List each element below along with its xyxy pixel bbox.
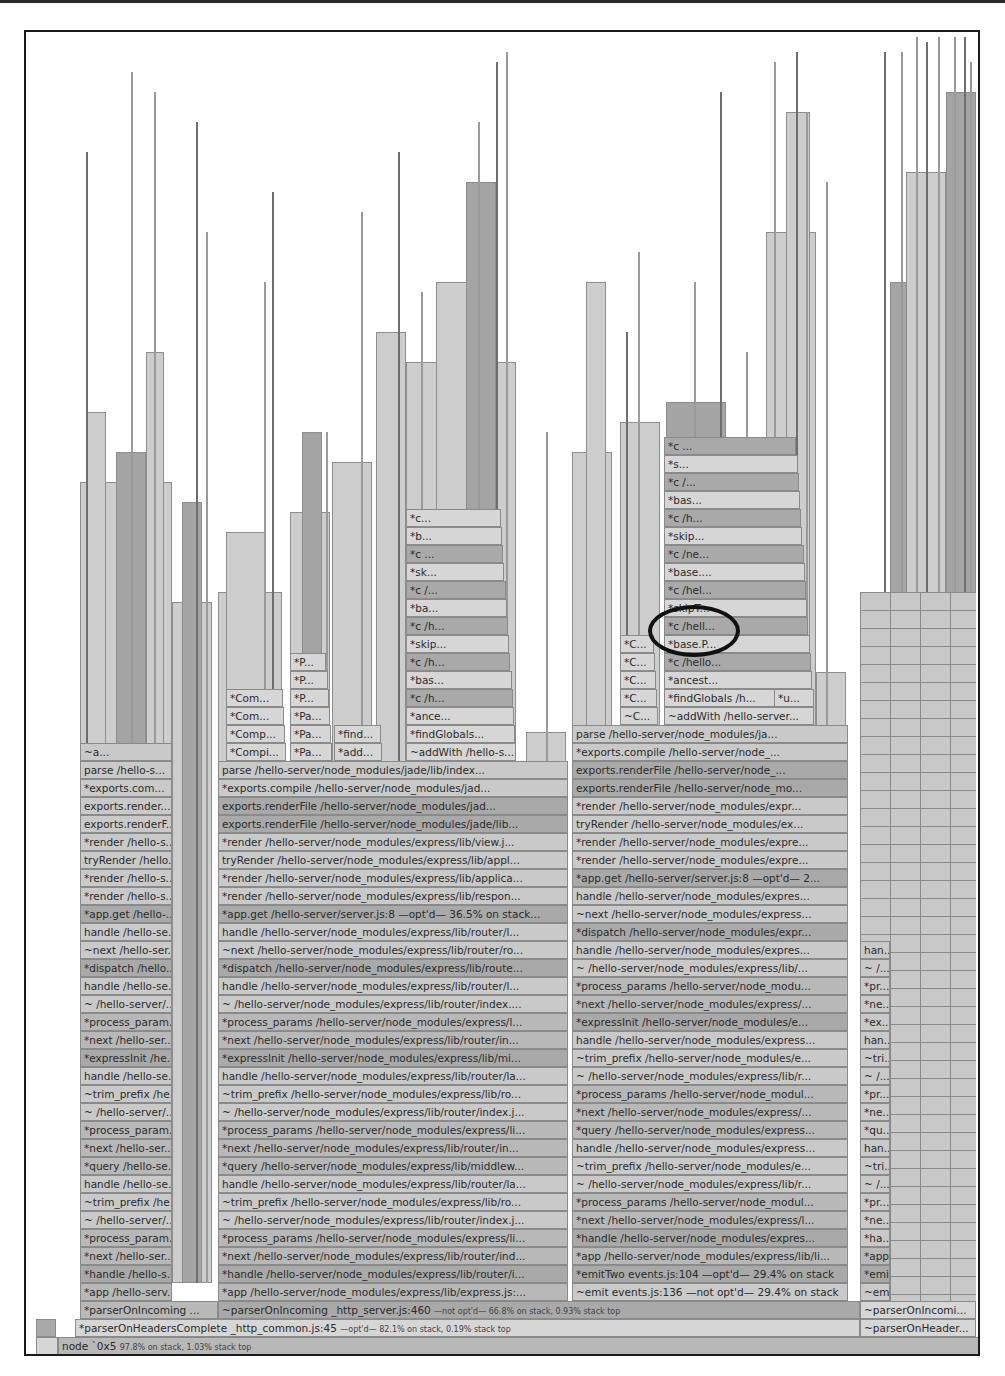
stack-frame[interactable]: ~ /... xyxy=(860,1067,890,1085)
stack-frame[interactable]: han... xyxy=(860,1139,890,1157)
stack-frame[interactable]: *bas... xyxy=(406,671,512,689)
stack-frame[interactable]: *render /hello-s... xyxy=(80,833,172,851)
stack-frame[interactable]: exports.renderFile /hello-server/node_mo… xyxy=(218,797,568,815)
stack-frame[interactable]: *expressInit /he... xyxy=(80,1049,172,1067)
frame-parser-on-header-right[interactable]: ~parserOnHeader... xyxy=(860,1319,976,1337)
stack-frame[interactable]: *handle /hello-server/node_modules/expre… xyxy=(572,1229,848,1247)
stack-frame[interactable]: *app /h... xyxy=(860,1247,890,1265)
stack-frame[interactable]: *process_params /hello-server/node_modul… xyxy=(218,1121,568,1139)
stack-frame[interactable]: *process_params /hello-server/node_modul… xyxy=(218,1013,568,1031)
stack-frame[interactable]: *Pa... xyxy=(290,743,332,761)
stack-frame[interactable]: ~addWith /hello-server... xyxy=(664,707,814,725)
stack-frame[interactable]: exports.renderF... xyxy=(80,815,172,833)
stack-frame[interactable]: *ne... xyxy=(860,995,890,1013)
stack-frame[interactable]: *next /hello-server/node_modules/express… xyxy=(572,995,848,1013)
stack-frame[interactable]: *base.P... xyxy=(664,635,810,653)
stack-frame[interactable]: parse /hello-server/node_modules/ja... xyxy=(572,725,848,743)
stack-frame[interactable]: *ba... xyxy=(406,599,507,617)
stack-frame[interactable]: handle /hello-server/node_modules/expres… xyxy=(218,1175,568,1193)
stack-frame[interactable]: *ne... xyxy=(860,1211,890,1229)
stack-frame[interactable]: *C... xyxy=(620,671,656,689)
stack-frame[interactable]: *next /hello-ser... xyxy=(80,1031,172,1049)
stack-frame[interactable]: *process_params /hello-server/node_modu.… xyxy=(572,977,848,995)
stack-frame[interactable]: ~trim_prefix /hello-server/node_modules/… xyxy=(218,1193,568,1211)
stack-frame[interactable]: *expressInit /hello-server/node_modules/… xyxy=(218,1049,568,1067)
stack-frame[interactable]: *next /hello-server/node_modules/express… xyxy=(572,1211,848,1229)
stack-frame[interactable]: ~ /hello-server/... xyxy=(80,1103,172,1121)
stack-frame[interactable]: *handle /hello-server/node_modules/expre… xyxy=(218,1265,568,1283)
stack-frame[interactable]: *process_param... xyxy=(80,1229,172,1247)
stack-frame[interactable]: *skip... xyxy=(664,527,802,545)
stack-frame[interactable]: handle /hello-server/node_modules/expres… xyxy=(572,941,848,959)
stack-frame[interactable]: han... xyxy=(860,1031,890,1049)
stack-frame[interactable]: *app.get /hello-... xyxy=(80,905,172,923)
stack-frame[interactable]: *exports.compile /hello-server/node_... xyxy=(572,743,848,761)
stack-frame[interactable]: *render /hello-server/node_modules/expr.… xyxy=(572,797,848,815)
stack-frame[interactable]: *next /hello-server/node_modules/express… xyxy=(218,1139,568,1157)
stack-frame[interactable]: *ance... xyxy=(406,707,514,725)
stack-frame[interactable]: ~addWith /hello-s... xyxy=(406,743,516,761)
stack-frame[interactable]: han... xyxy=(860,941,890,959)
stack-frame[interactable]: *c ... xyxy=(406,545,503,563)
stack-frame[interactable]: parse /hello-server/node_modules/jade/li… xyxy=(218,761,568,779)
stack-frame[interactable]: *C... xyxy=(620,653,655,671)
stack-frame[interactable]: *expressInit /hello-server/node_modules/… xyxy=(572,1013,848,1031)
stack-frame[interactable]: ~trim_prefix /hello-server/node_modules/… xyxy=(572,1049,848,1067)
stack-frame[interactable]: exports.renderFile /hello-server/node_..… xyxy=(572,761,848,779)
stack-frame[interactable]: *qu... xyxy=(860,1121,890,1139)
stack-frame[interactable]: *c /hell... xyxy=(664,617,808,635)
stack-frame[interactable]: *process_params /hello-server/node_modul… xyxy=(218,1229,568,1247)
stack-frame[interactable]: *c /... xyxy=(406,581,506,599)
stack-frame[interactable]: ~ /... xyxy=(860,1175,890,1193)
stack-frame[interactable]: *dispatch /hello-server/node_modules/exp… xyxy=(218,959,568,977)
stack-frame[interactable]: exports.renderFile /hello-server/node_mo… xyxy=(218,815,568,833)
stack-frame[interactable]: *findGlobals... xyxy=(406,725,515,743)
stack-frame[interactable]: parse /hello-s... xyxy=(80,761,172,779)
stack-frame[interactable]: *exports.com... xyxy=(80,779,172,797)
stack-frame[interactable]: ~ /hello-server/node_modules/express/lib… xyxy=(572,1175,848,1193)
stack-frame[interactable]: *Compi... xyxy=(226,743,286,761)
stack-frame[interactable]: handle /hello-se... xyxy=(80,977,172,995)
stack-frame[interactable]: exports.render... xyxy=(80,797,172,815)
stack-frame[interactable]: handle /hello-se... xyxy=(80,923,172,941)
stack-frame[interactable]: *app.get /hello-server/server.js:8 —opt'… xyxy=(218,905,568,923)
stack-frame[interactable]: *ne... xyxy=(860,1103,890,1121)
stack-frame[interactable]: *Pa... xyxy=(290,725,331,743)
stack-frame[interactable]: *next /hello-server/node_modules/express… xyxy=(218,1031,568,1049)
stack-frame[interactable]: *render /hello-s... xyxy=(80,869,172,887)
stack-frame[interactable]: *exports.compile /hello-server/node_modu… xyxy=(218,779,568,797)
stack-frame[interactable]: *c /ne... xyxy=(664,545,804,563)
frame-parser-on-incoming-main[interactable]: ~parserOnIncoming _http_server.js:460 —n… xyxy=(218,1301,860,1319)
stack-frame[interactable]: *c /h... xyxy=(406,689,513,707)
stack-frame[interactable]: *c ... xyxy=(664,437,796,455)
stack-frame[interactable]: *app.get /hello-server/server.js:8 —opt'… xyxy=(572,869,848,887)
stack-frame[interactable]: ~ /hello-server/node_modules/express/lib… xyxy=(572,1067,848,1085)
stack-frame[interactable]: *C... xyxy=(620,635,654,653)
stack-frame[interactable]: ~emit events.js:1... xyxy=(860,1283,890,1301)
frame-parser-on-incoming-right[interactable]: ~parserOnIncomi... xyxy=(860,1301,976,1319)
stack-frame[interactable]: handle /hello-server/node_modules/expres… xyxy=(572,1031,848,1049)
stack-frame[interactable]: handle /hello-server/node_modules/expres… xyxy=(218,977,568,995)
stack-frame[interactable]: *ha... xyxy=(860,1229,890,1247)
stack-frame[interactable]: *add... xyxy=(334,743,382,761)
stack-frame[interactable]: *emitTwo events.js:104 —opt'd— 29.4% on … xyxy=(572,1265,848,1283)
stack-frame[interactable]: exports.renderFile /hello-server/node_mo… xyxy=(572,779,848,797)
stack-frame[interactable]: *c /h... xyxy=(406,653,510,671)
stack-frame[interactable]: *ex... xyxy=(860,1013,890,1031)
stack-frame[interactable]: *c... xyxy=(406,509,501,527)
stack-frame[interactable]: *process_params /hello-server/node_modul… xyxy=(572,1085,848,1103)
stack-frame[interactable]: *c /... xyxy=(664,473,799,491)
stack-frame[interactable]: *b... xyxy=(406,527,502,545)
stack-frame[interactable]: handle /hello-server/node_modules/expres… xyxy=(218,1067,568,1085)
stack-frame[interactable]: *query /hello-server/node_modules/expres… xyxy=(218,1157,568,1175)
stack-frame[interactable]: *next /hello-ser... xyxy=(80,1139,172,1157)
stack-frame[interactable]: *s... xyxy=(664,455,798,473)
stack-frame[interactable]: ~emit events.js:136 —not opt'd— 29.4% on… xyxy=(572,1283,848,1301)
stack-frame[interactable]: ~ /hello-server/node_modules/express/lib… xyxy=(218,1103,568,1121)
stack-frame[interactable]: *Com... xyxy=(226,707,284,725)
stack-frame[interactable]: handle /hello-server/node_modules/expres… xyxy=(218,923,568,941)
stack-frame[interactable]: *Com... xyxy=(226,689,283,707)
stack-frame[interactable]: *dispatch /hello-server/node_modules/exp… xyxy=(572,923,848,941)
stack-frame[interactable]: ~next /hello-ser... xyxy=(80,941,172,959)
stack-frame[interactable]: *bas... xyxy=(664,491,800,509)
